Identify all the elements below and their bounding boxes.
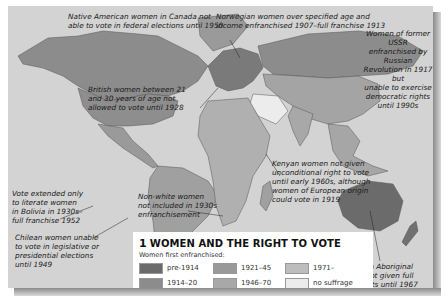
world-map: Native American women in Canada not able… [8, 6, 433, 288]
legend-label-1971: 1971– [313, 264, 334, 272]
legend: 1WOMEN AND THE RIGHT TO VOTE Women first… [133, 232, 373, 288]
annotation-chile: Chilean women unable to vote in legislat… [15, 233, 99, 269]
region-central-america [98, 124, 158, 168]
annotation-bolivia: Vote extended only to literate women in … [12, 189, 83, 225]
legend-label-no-suffrage: no suffrage [313, 279, 353, 287]
legend-subtitle: Women first enfranchised: [139, 251, 225, 259]
legend-label-1921-45: 1921–45 [241, 264, 271, 272]
legend-swatch-1914-20 [139, 278, 163, 288]
legend-label-pre-1914: pre-1914 [167, 264, 199, 272]
legend-swatch-1946-70 [213, 278, 237, 288]
legend-swatch-1971 [285, 263, 309, 274]
annotation-britain: British women between 21 and 30 years of… [88, 85, 186, 112]
annotation-norway: Norwegian women over specified age and i… [216, 12, 385, 30]
legend-label-1946-70: 1946–70 [241, 279, 271, 287]
legend-swatch-1921-45 [213, 263, 237, 274]
annotation-kenya: Kenyan women not given unconditional rig… [272, 159, 370, 204]
region-europe [208, 48, 263, 91]
legend-swatch-no-suffrage [285, 278, 309, 288]
legend-swatch-pre-1914 [139, 263, 163, 274]
annotation-canada: Native American women in Canada not able… [68, 12, 223, 30]
frame-shadow-bottom [14, 288, 441, 296]
frame-shadow-right [433, 12, 441, 294]
annotation-ussr: Women of former USSR enfranchised by Rus… [360, 29, 433, 110]
annotation-south-africa: Non-white women not included in 1930s en… [138, 192, 217, 219]
legend-label-1914-20: 1914–20 [167, 279, 197, 287]
region-new-zealand [402, 221, 418, 246]
legend-title: 1WOMEN AND THE RIGHT TO VOTE [139, 237, 341, 250]
